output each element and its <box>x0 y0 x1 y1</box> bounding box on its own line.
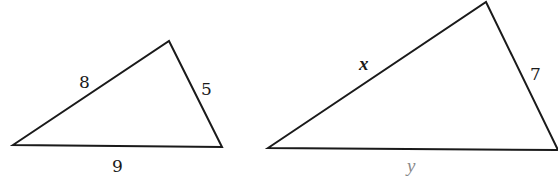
large-right-side-label: 7 <box>530 64 541 84</box>
similar-triangles-diagram: 8 5 9 x 7 y <box>0 0 558 181</box>
large-left-side-label: x <box>358 53 369 74</box>
large-bottom-side-label: y <box>405 155 416 176</box>
small-triangle <box>13 41 222 147</box>
small-left-side-label: 8 <box>79 72 90 92</box>
small-bottom-side-label: 9 <box>112 156 123 176</box>
small-right-side-label: 5 <box>201 79 212 99</box>
large-triangle <box>268 2 558 150</box>
